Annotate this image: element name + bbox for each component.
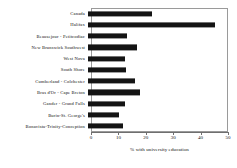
category-label: Bonavista-Trinity-Conception (0, 124, 88, 129)
x-axis-title: % with university education (91, 146, 228, 153)
bar-row: Cumberland - Colchester (0, 76, 237, 87)
category-label: Cumberland - Colchester (0, 79, 88, 84)
x-axis-tick-label: 20 (143, 135, 148, 141)
bar-track (88, 121, 225, 132)
bar (88, 101, 125, 106)
bar (88, 124, 123, 129)
x-axis-tick-label: 50 (226, 135, 231, 141)
bar (88, 11, 152, 16)
bar-row: Canada (0, 8, 237, 19)
bar-track (88, 53, 225, 64)
bar (88, 22, 215, 27)
bar-row: New Brunswick Southwest (0, 42, 237, 53)
bar-row: South Shore (0, 64, 237, 75)
category-label: South Shore (0, 67, 88, 72)
bar-track (88, 98, 225, 109)
bar-track (88, 19, 225, 30)
bar-track (88, 42, 225, 53)
bar-row: West Nova (0, 53, 237, 64)
bar-row: Beausejour - Petitcodiac (0, 31, 237, 42)
bar-chart: Canada Halifax Beausejour - Petitcodiac … (0, 0, 237, 168)
category-label: Beausejour - Petitcodiac (0, 34, 88, 39)
x-axis-tick-label: 40 (198, 135, 203, 141)
bar-track (88, 31, 225, 42)
category-label: Halifax (0, 22, 88, 27)
bar (88, 45, 137, 50)
bar (88, 79, 135, 84)
bar-track (88, 76, 225, 87)
bar-row: Bonavista-Trinity-Conception (0, 121, 237, 132)
bar (88, 34, 127, 39)
bar (88, 56, 125, 61)
x-axis-line (91, 132, 228, 133)
category-label: Gander - Grand Falls (0, 101, 88, 106)
x-axis-tick-label: 10 (116, 135, 121, 141)
category-label: New Brunswick Southwest (0, 45, 88, 50)
bar-track (88, 109, 225, 120)
bar-track (88, 64, 225, 75)
bar-row: Burin-St. George's (0, 109, 237, 120)
category-label: Canada (0, 11, 88, 16)
x-axis-tick-label: 0 (90, 135, 93, 141)
bar-track (88, 87, 225, 98)
bar-track (88, 8, 225, 19)
category-label: Bras d'Or - Cape Breton (0, 90, 88, 95)
category-label: West Nova (0, 56, 88, 61)
bar-row: Halifax (0, 19, 237, 30)
bar (88, 112, 119, 117)
x-axis-tick-label: 30 (171, 135, 176, 141)
bar-row: Bras d'Or - Cape Breton (0, 87, 237, 98)
bar-rows: Canada Halifax Beausejour - Petitcodiac … (0, 8, 237, 132)
bar (88, 67, 126, 72)
bar (88, 90, 140, 95)
category-label: Burin-St. George's (0, 113, 88, 118)
bar-row: Gander - Grand Falls (0, 98, 237, 109)
